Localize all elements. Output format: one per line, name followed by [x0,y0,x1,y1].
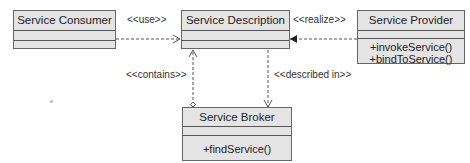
class-name: Service Description [182,11,289,31]
label-realize: <<realize>> [293,14,346,25]
operations-compartment: +invokeService() +bindToService() [358,39,464,65]
class-name: Service Provider [358,11,464,31]
class-service-description[interactable]: Service Description [181,10,290,49]
attributes-compartment [183,127,291,136]
attributes-compartment [14,31,115,41]
label-use: <<use>> [127,14,166,25]
class-service-broker[interactable]: Service Broker +findService() [182,107,292,161]
label-contains: <<contains>> [126,69,187,80]
operation: +findService() [183,143,291,155]
class-name: Service Broker [183,108,291,127]
operations-compartment: +findService() [183,136,291,155]
class-service-consumer[interactable]: Service Consumer [13,10,116,49]
operation: +bindToService() [358,53,464,65]
class-name: Service Consumer [14,11,115,31]
label-described-in: <<described in>> [274,69,351,80]
class-service-provider[interactable]: Service Provider +invokeService() +bindT… [357,10,465,64]
attributes-compartment [182,31,289,41]
attributes-compartment [358,31,464,39]
stray-mark [50,100,53,103]
operation: +invokeService() [358,41,464,53]
